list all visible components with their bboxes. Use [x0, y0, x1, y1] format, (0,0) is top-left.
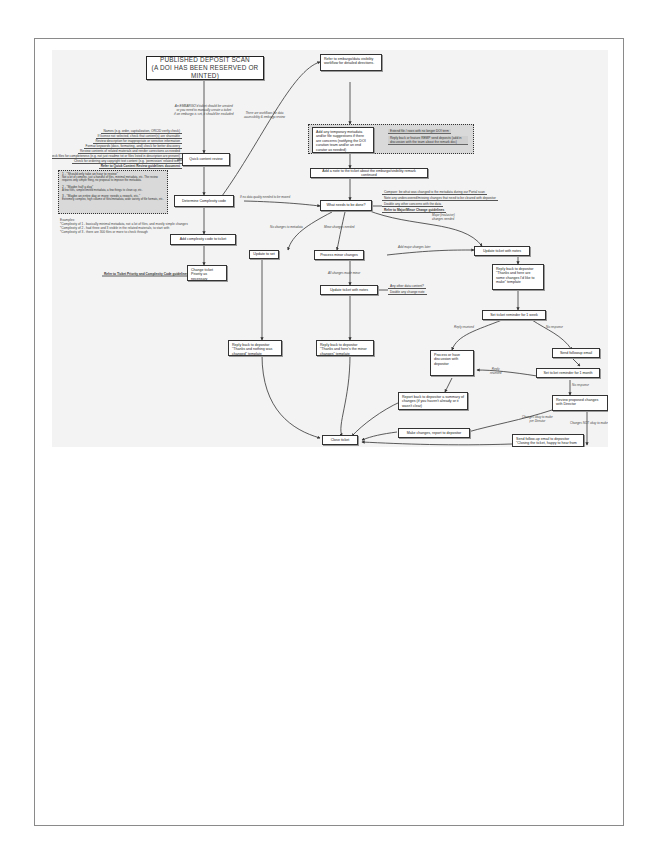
- reply-empty-node: Reply back to depositor "Thanks and noth…: [228, 340, 282, 356]
- what-check-3: Double any other concerns with the data: [382, 202, 443, 207]
- change-priority-node: Change ticket Priority as necessary: [187, 265, 227, 281]
- set-reminder-month-node: Set ticket reminder for 1 month: [536, 368, 600, 378]
- update-notes-minor-node: Update ticket with notes: [320, 285, 378, 295]
- title-line-1: PUBLISHED DEPOSIT SCAN: [160, 56, 250, 64]
- complexity-option-3: 3 - "Maybe an entire day or more; needs …: [59, 193, 167, 202]
- update-to-set-node: Update to set: [249, 250, 279, 259]
- complexity-option-1: 1 - "Should only take an hour to review"…: [59, 171, 167, 184]
- process-or-discuss-node: Process or have discussion with deposito…: [430, 350, 474, 376]
- all-minor-label: All changes made minor: [328, 272, 360, 276]
- branch-major-label: Major (exclusive) changes needed: [432, 214, 455, 221]
- priority-guideline: Refer to Ticket Priority and Complexity …: [102, 272, 190, 276]
- metadata-side-2: Reply back or feature REMP send deposits…: [388, 136, 468, 145]
- close-ticket-node: Close ticket: [322, 435, 358, 445]
- reply-major-node: Reply back to depositor "Thanks and here…: [492, 264, 544, 290]
- minor-side-1: Any other data content?: [388, 284, 426, 289]
- determine-complexity-node: Determine Complexity code: [174, 195, 234, 207]
- complexity-option-2: 2 - "Maybe half a day" A few files, simp…: [59, 184, 167, 193]
- process-minor-node: Process minor changes: [314, 250, 364, 260]
- no-response-label: No response: [546, 326, 563, 330]
- review-proposed-node: Review proposed changes with Director: [552, 395, 608, 411]
- what-check-2: Note any undercovered/missing changes th…: [382, 196, 498, 201]
- metadata-side-1: Extend file / rows with no longer DOI te…: [388, 129, 451, 134]
- start-note: An EMBARGO'd ticket should be created or…: [174, 104, 234, 116]
- no-response-2-label: No response: [572, 384, 589, 388]
- reply-received-2-label: Reply received: [490, 368, 501, 375]
- make-changes-node: Make changes, report to depositor: [398, 428, 470, 438]
- set-reminder-week-node: Set ticket reminder for 1 week: [482, 310, 546, 320]
- reply-minor-node: Reply back to depositor "Thanks and here…: [316, 340, 374, 356]
- quick-check-guideline: Refer to Quick Content Review guidelines…: [99, 164, 182, 169]
- reply-received-label: Reply received: [454, 326, 474, 330]
- title-line-2: (A DOI HAS BEEN RESERVED OR MINTED): [150, 64, 260, 80]
- what-needs-incoming-label: If no data quality needed to be moved: [240, 196, 290, 200]
- branch-minor-label: Minor changes needed: [324, 226, 355, 230]
- refer-embargo-node: Refer to embargo/data visibility workflo…: [320, 54, 382, 71]
- report-back-node: Report back to depositor a summary of ch…: [398, 392, 468, 410]
- send-close-node: Send follow-up email to depositor "Closi…: [512, 434, 584, 447]
- update-notes-major-node: Update ticket with notes: [474, 246, 530, 256]
- add-complexity-node: Add complexity code to ticket: [170, 234, 236, 245]
- changes-not-okay-label: Changes NOT okay to make: [570, 422, 608, 426]
- branch-no-changes-label: No changes to metadata: [270, 226, 303, 230]
- what-needs-node: What needs to be done?: [320, 200, 372, 211]
- what-check-1: Compare: be what was changed to the meta…: [382, 190, 487, 195]
- quick-review-node: Quick content review: [182, 153, 230, 166]
- title-node: PUBLISHED DEPOSIT SCAN (A DOI HAS BEEN R…: [146, 56, 264, 80]
- add-note-node: Add a note to the ticket about the embar…: [310, 168, 428, 178]
- workflow-diagram: PUBLISHED DEPOSIT SCAN (A DOI HAS BEEN R…: [52, 50, 608, 447]
- add-major-later-label: Add major changes later: [398, 246, 431, 250]
- changes-okay-label: Changes okay to make per Director: [522, 416, 553, 423]
- embargo-link-label: There are workflows for data accessibili…: [244, 112, 285, 119]
- add-metadata-node: Add any temporary metadata and/or file s…: [312, 127, 374, 153]
- send-followup-node: Send followup email: [552, 348, 600, 358]
- complexity-options-box: 1 - "Should only take an hour to review"…: [58, 170, 168, 214]
- minor-side-2: Double any change note: [388, 290, 427, 295]
- complexity-examples: Examples: *Complexity of 1 - basically m…: [60, 218, 188, 234]
